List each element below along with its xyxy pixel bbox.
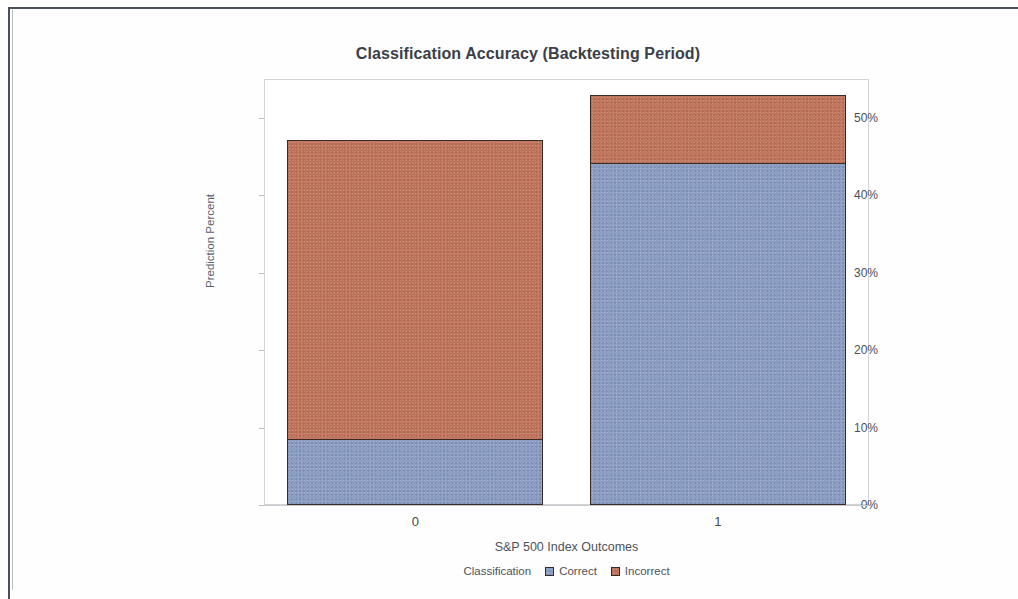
legend-swatch-icon	[611, 567, 620, 576]
classification-accuracy-chart: Classification Accuracy (Backtesting Per…	[178, 35, 878, 570]
bar-segment-correct[interactable]	[287, 439, 543, 505]
y-tick-mark	[259, 118, 264, 119]
y-tick-mark	[259, 428, 264, 429]
y-tick-mark	[259, 350, 264, 351]
bar-stack[interactable]	[590, 79, 846, 505]
bar-stack[interactable]	[287, 79, 543, 505]
chart-legend: Classification CorrectIncorrect	[264, 565, 869, 577]
legend-title: Classification	[463, 565, 531, 577]
legend-swatch-icon	[545, 567, 554, 576]
scanned-page-frame: Classification Accuracy (Backtesting Per…	[8, 7, 1018, 599]
x-tick-label: 1	[658, 514, 778, 529]
legend-label: Incorrect	[625, 565, 670, 577]
x-tick-label: 0	[355, 514, 475, 529]
x-axis-line	[264, 505, 869, 506]
y-tick-mark	[259, 273, 264, 274]
x-axis-title: S&P 500 Index Outcomes	[264, 540, 869, 554]
chart-title: Classification Accuracy (Backtesting Per…	[178, 45, 878, 63]
legend-entry-incorrect[interactable]: Incorrect	[611, 565, 670, 577]
bar-segment-incorrect[interactable]	[590, 95, 846, 164]
legend-entry-correct[interactable]: Correct	[545, 565, 597, 577]
y-tick-mark	[259, 195, 264, 196]
bar-segment-correct[interactable]	[590, 163, 846, 505]
legend-label: Correct	[559, 565, 597, 577]
y-axis-title: Prediction Percent	[204, 141, 216, 341]
bar-segment-incorrect[interactable]	[287, 140, 543, 440]
